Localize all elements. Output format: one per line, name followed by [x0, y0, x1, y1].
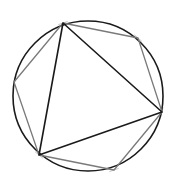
circumscribed-circle: [13, 21, 163, 171]
inscribed-polygons-diagram: [0, 0, 173, 189]
